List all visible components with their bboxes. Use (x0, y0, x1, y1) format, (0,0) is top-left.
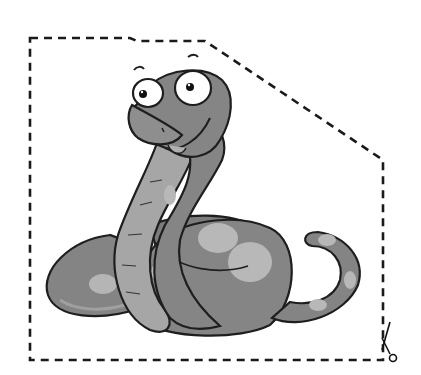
right-eye-shine (188, 84, 190, 86)
scissors-icon (382, 322, 397, 362)
neck-spot (164, 185, 176, 205)
main-coil-spot-2 (228, 242, 272, 282)
left-eye-shine (141, 91, 143, 93)
tail-spot-1 (318, 234, 336, 246)
illustration-canvas (0, 0, 421, 375)
snake-head (129, 55, 231, 157)
right-eyebrow (188, 55, 198, 57)
main-coil-spot-1 (198, 223, 238, 253)
left-eyebrow (134, 67, 144, 70)
left-eye-white (133, 79, 163, 107)
right-pupil (186, 83, 194, 91)
tail-spot-3 (309, 299, 327, 311)
snake-cutout-illustration: cartoon snake cut-out (0, 0, 421, 375)
tail-spot-2 (344, 271, 356, 289)
left-pupil (139, 90, 147, 98)
left-coil-spot (89, 274, 117, 294)
